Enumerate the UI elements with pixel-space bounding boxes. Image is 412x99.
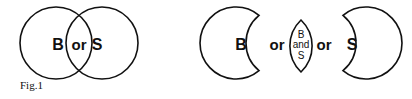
figure-caption: Fig.1 — [20, 79, 43, 91]
crescent-b — [200, 7, 259, 79]
label-or: or — [72, 36, 87, 53]
label-s: S — [92, 36, 103, 53]
right-label-s: S — [347, 36, 358, 53]
lens-label-s: S — [298, 50, 305, 61]
lens-label-and: and — [293, 39, 310, 50]
right-label-or-1: or — [270, 36, 285, 53]
label-b: B — [52, 36, 64, 53]
venn-figure: B or S B or B and S or S — [0, 0, 412, 99]
right-label-b: B — [235, 36, 247, 53]
right-label-or-2: or — [317, 36, 332, 53]
